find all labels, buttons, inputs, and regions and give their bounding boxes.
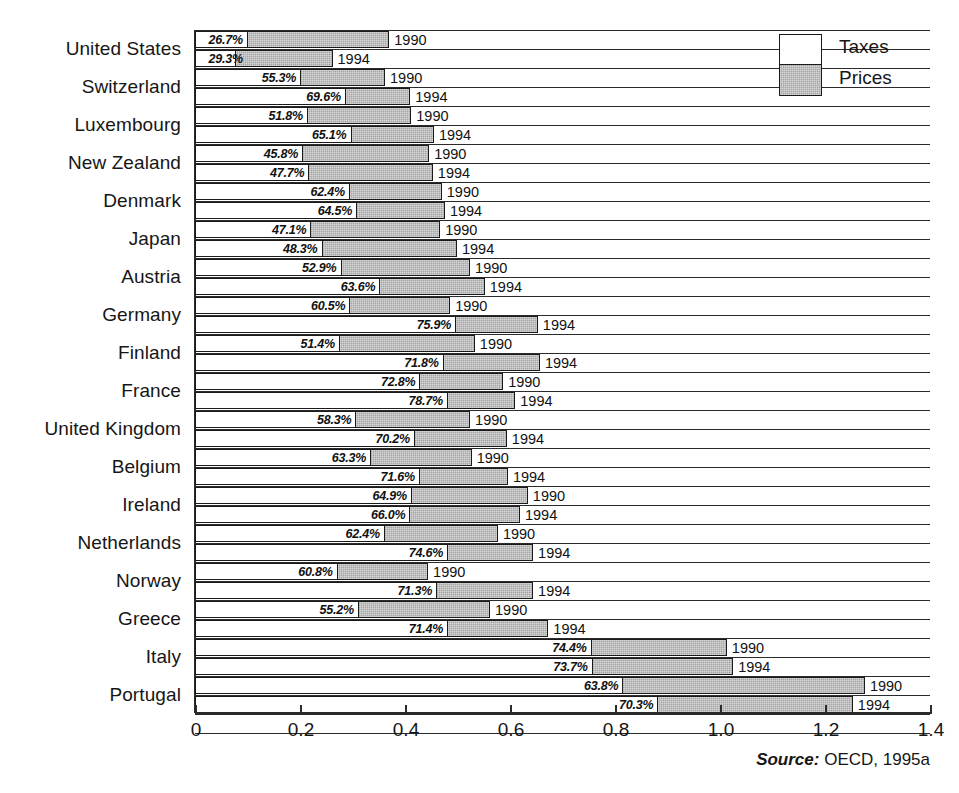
stacked-bar	[195, 107, 411, 124]
x-tick-label: 1.0	[708, 719, 734, 741]
bar-row: 63.6%1994	[195, 277, 930, 296]
stacked-bar	[195, 696, 853, 713]
bar-row: 71.3%1994	[195, 581, 930, 600]
stacked-bar	[195, 430, 507, 447]
category-label: Austria	[121, 266, 181, 288]
x-tick-label: 0.2	[288, 719, 314, 741]
bar-tax-share-label: 70.2%	[364, 432, 410, 446]
stacked-bar	[195, 221, 440, 238]
x-tick-label: 0.4	[393, 719, 419, 741]
category-axis-labels: United StatesSwitzerlandLuxembourgNew Ze…	[0, 30, 190, 708]
legend-label-taxes: Taxes	[839, 36, 889, 58]
row-separator	[195, 125, 930, 126]
bar-row: 47.1%1990	[195, 220, 930, 239]
bar-year-label: 1994	[510, 469, 545, 485]
x-axis-line	[195, 712, 930, 714]
stacked-bar	[195, 392, 515, 409]
bar-tax-share-label: 48.3%	[272, 242, 318, 256]
bar-row: 60.5%1990	[195, 296, 930, 315]
row-separator	[195, 201, 930, 202]
category-label: Netherlands	[77, 532, 181, 554]
bar-segment-taxes	[196, 659, 593, 674]
row-separator	[195, 581, 930, 582]
row-separator	[195, 410, 930, 411]
stacked-bar	[195, 582, 533, 599]
x-tick-label: 0	[191, 719, 202, 741]
row-separator	[195, 505, 930, 506]
stacked-bar	[195, 316, 538, 333]
bar-tax-share-label: 47.7%	[258, 166, 304, 180]
bar-tax-share-label: 71.4%	[397, 622, 443, 636]
row-separator	[195, 296, 930, 297]
bar-tax-share-label: 64.9%	[361, 489, 407, 503]
bar-year-label: 1994	[435, 165, 470, 181]
bar-year-label: 1994	[522, 507, 557, 523]
bar-year-label: 1994	[550, 621, 585, 637]
row-separator	[195, 353, 930, 354]
legend-swatch-prices	[780, 65, 821, 95]
category-label: Portugal	[109, 684, 181, 706]
bar-row: 72.8%1990	[195, 372, 930, 391]
row-separator	[195, 619, 930, 620]
bar-tax-share-label: 62.4%	[334, 527, 380, 541]
x-tick-label: 0.6	[498, 719, 524, 741]
bar-year-label: 1994	[436, 127, 471, 143]
bar-tax-share-label: 51.8%	[257, 109, 303, 123]
bar-tax-share-label: 45.8%	[252, 147, 298, 161]
bar-year-label: 1990	[729, 640, 764, 656]
category-label: New Zealand	[68, 152, 181, 174]
bar-year-label: 1990	[867, 678, 902, 694]
chart-root: United StatesSwitzerlandLuxembourgNew Ze…	[0, 0, 959, 793]
row-separator	[195, 334, 930, 335]
bar-year-label: 1990	[472, 412, 507, 428]
category-label: Denmark	[103, 190, 181, 212]
category-label: Italy	[146, 646, 181, 668]
bar-row: 63.8%1990	[195, 676, 930, 695]
bar-row: 64.9%1990	[195, 486, 930, 505]
row-separator	[195, 391, 930, 392]
category-label: France	[121, 380, 181, 402]
bar-row: 64.5%1994	[195, 201, 930, 220]
bar-tax-share-label: 47.1%	[260, 223, 306, 237]
bar-year-label: 1994	[509, 431, 544, 447]
bar-row: 71.6%1994	[195, 467, 930, 486]
bar-year-label: 1990	[492, 602, 527, 618]
stacked-bar	[195, 639, 727, 656]
bar-year-label: 1990	[391, 32, 426, 48]
x-tick-label: 1.2	[813, 719, 839, 741]
bar-tax-share-label: 63.8%	[572, 679, 618, 693]
bar-year-label: 1994	[540, 317, 575, 333]
legend-swatch-taxes	[780, 35, 821, 65]
stacked-bar	[195, 620, 548, 637]
stacked-bar	[195, 164, 433, 181]
row-separator	[195, 239, 930, 240]
bar-tax-share-label: 29.3%	[197, 52, 243, 66]
bar-year-label: 1990	[387, 70, 422, 86]
bar-tax-share-label: 51.4%	[289, 337, 335, 351]
bar-tax-share-label: 63.6%	[329, 280, 375, 294]
category-label: Germany	[102, 304, 181, 326]
bar-tax-share-label: 26.7%	[197, 33, 243, 47]
row-separator	[195, 448, 930, 449]
row-separator	[195, 258, 930, 259]
x-tick-label: 0.8	[603, 719, 629, 741]
bar-row: 78.7%1994	[195, 391, 930, 410]
bar-tax-share-label: 55.3%	[250, 71, 296, 85]
category-label: United Kingdom	[44, 418, 181, 440]
row-separator	[195, 220, 930, 221]
bar-row: 52.9%1990	[195, 258, 930, 277]
bar-year-label: 1990	[413, 108, 448, 124]
row-separator	[195, 600, 930, 601]
bar-tax-share-label: 62.4%	[299, 185, 345, 199]
stacked-bar	[195, 468, 508, 485]
bar-segment-taxes	[196, 678, 623, 693]
stacked-bar	[195, 373, 503, 390]
bar-row: 51.8%1990	[195, 106, 930, 125]
bar-year-label: 1990	[500, 526, 535, 542]
source-term: Source:	[756, 750, 819, 769]
bar-year-label: 1990	[474, 450, 509, 466]
bar-tax-share-label: 52.9%	[291, 261, 337, 275]
legend-label-prices: Prices	[839, 67, 892, 89]
plot-area: 26.7%199029.3%199455.3%199069.6%199451.8…	[195, 30, 930, 708]
category-label: Switzerland	[82, 76, 181, 98]
